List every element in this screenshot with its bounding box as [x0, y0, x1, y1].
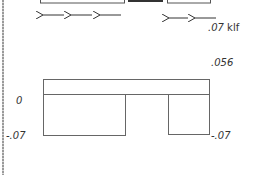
top-value-label: .056 [211, 58, 233, 68]
positive-band [44, 80, 210, 95]
negative-right-block [169, 95, 210, 135]
load-label: .07 klf [208, 23, 239, 33]
right-bottom-label: -.07 [211, 131, 231, 141]
shear-diagram [44, 80, 210, 136]
zero-label: 0 [16, 96, 22, 106]
load-unit: klf [227, 22, 239, 33]
left-bottom-label: -.07 [6, 131, 26, 141]
negative-left-block [44, 95, 126, 136]
middle-member [128, 0, 163, 2]
load-arrows [43, 15, 216, 18]
top-members [41, 0, 211, 3]
left-member [41, 0, 125, 3]
load-value: .07 [208, 22, 224, 33]
right-member [168, 0, 211, 3]
